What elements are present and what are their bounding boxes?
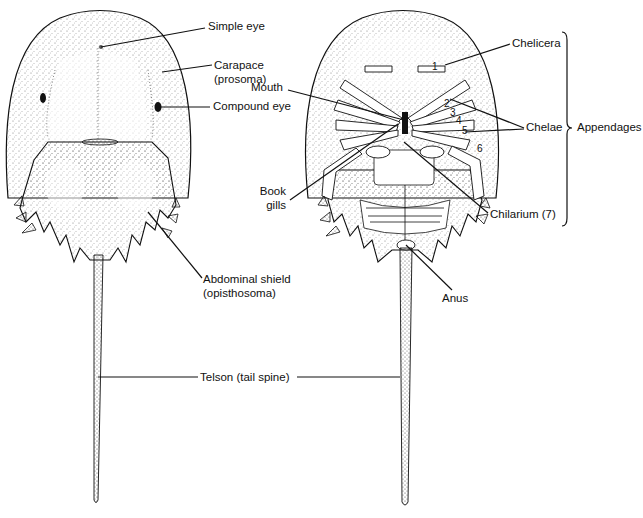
label-simple-eye: Simple eye xyxy=(208,20,265,33)
appendage-number-2: 2 xyxy=(444,97,450,110)
label-anus: Anus xyxy=(442,292,468,305)
label-telson: Telson (tail spine) xyxy=(200,371,289,384)
mouth-shape xyxy=(402,112,408,134)
appendage-number-6: 6 xyxy=(477,142,483,155)
label-mouth: Mouth xyxy=(251,81,283,94)
label-abdominal-shield: Abdominal shield xyxy=(203,273,291,286)
label-chilarium: Chilarium (7) xyxy=(490,208,556,221)
compound-eye-left xyxy=(40,93,46,103)
dorsal-view xyxy=(6,11,190,503)
label-chelae: Chelae xyxy=(526,121,562,134)
label-carapace: Carapace xyxy=(214,59,264,72)
abdominal-shield-shape xyxy=(20,142,176,262)
telson-shape xyxy=(94,255,103,503)
appendage-number-1: 1 xyxy=(432,60,438,73)
ventral-view xyxy=(306,11,499,506)
label-book-gills: Book xyxy=(246,185,286,198)
appendage-number-4: 4 xyxy=(456,114,462,127)
horseshoe-crab-diagram xyxy=(0,0,643,518)
appendage-number-3: 3 xyxy=(450,106,456,119)
label-abdominal-shield-sub: (opisthosoma) xyxy=(203,287,276,300)
label-chelicera: Chelicera xyxy=(512,37,561,50)
label-compound-eye: Compound eye xyxy=(213,100,291,113)
label-book-gills-sub: gills xyxy=(246,199,286,212)
appendage-number-5: 5 xyxy=(462,124,468,137)
ventral-telson-shape xyxy=(400,248,412,505)
label-appendages: Appendages xyxy=(577,121,642,134)
